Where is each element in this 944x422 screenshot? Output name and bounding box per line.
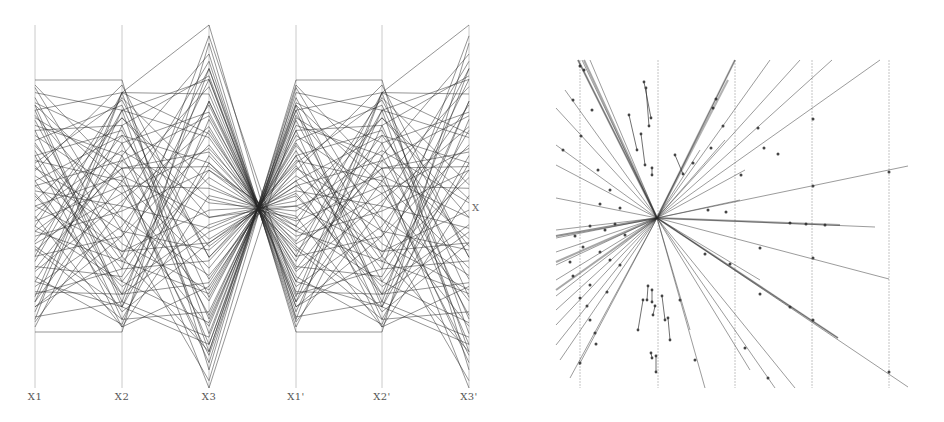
ray-marker bbox=[595, 343, 598, 346]
segment-endpoint bbox=[667, 317, 670, 320]
segment-endpoint bbox=[637, 329, 640, 332]
segment-endpoint bbox=[654, 305, 657, 308]
ray-marker bbox=[812, 118, 815, 121]
ray-line bbox=[657, 218, 795, 388]
ray-marker bbox=[619, 207, 622, 210]
segment-endpoint bbox=[651, 289, 654, 292]
ray-marker bbox=[888, 171, 891, 174]
ray-marker bbox=[604, 229, 607, 232]
segment-endpoint bbox=[628, 114, 631, 117]
segment-endpoint bbox=[645, 87, 648, 90]
ray-marker bbox=[589, 225, 592, 228]
ray-marker bbox=[710, 147, 713, 150]
segment-endpoint bbox=[661, 295, 664, 298]
short-segment bbox=[638, 300, 643, 330]
parallel-coordinates-plot: X1X2X3X1'X2'X3' X bbox=[0, 0, 490, 422]
ray-marker bbox=[759, 247, 762, 250]
ray-line bbox=[556, 218, 657, 345]
ray-line bbox=[657, 218, 775, 388]
ray-marker bbox=[624, 234, 627, 237]
axis-label-5: X2' bbox=[373, 391, 391, 402]
parallel-coordinates-canvas bbox=[0, 0, 490, 422]
side-label-x: X bbox=[472, 202, 479, 213]
segment-endpoint bbox=[664, 319, 667, 322]
ray-line bbox=[657, 218, 889, 279]
short-segment bbox=[662, 296, 665, 320]
ray-marker bbox=[763, 147, 766, 150]
polylines bbox=[35, 25, 469, 388]
ray-line bbox=[657, 60, 800, 218]
ray-marker bbox=[594, 332, 597, 335]
ray-marker bbox=[757, 127, 760, 130]
segment-endpoint bbox=[636, 149, 639, 152]
segment-endpoint bbox=[655, 371, 658, 374]
segment-endpoint bbox=[650, 352, 653, 355]
short-segment bbox=[647, 286, 648, 300]
ray-marker bbox=[597, 169, 600, 172]
segment-endpoint bbox=[651, 301, 654, 304]
ray-marker bbox=[609, 259, 612, 262]
segment-endpoint bbox=[669, 339, 672, 342]
ray-line bbox=[657, 218, 750, 370]
ray-plot bbox=[540, 0, 944, 422]
segment-endpoint bbox=[640, 133, 643, 136]
ray-plot-canvas bbox=[540, 0, 944, 422]
ray-marker bbox=[704, 253, 707, 256]
ray-line bbox=[657, 60, 880, 218]
ray-marker bbox=[582, 246, 585, 249]
ray-line bbox=[556, 165, 657, 218]
ray-marker bbox=[740, 174, 743, 177]
ray-marker bbox=[679, 299, 682, 302]
ray-marker bbox=[707, 209, 710, 212]
axis-label-2: X2 bbox=[115, 391, 129, 402]
ray-line bbox=[657, 60, 832, 218]
ray-marker bbox=[812, 185, 815, 188]
ray-marker bbox=[579, 362, 582, 365]
axis-label-1: X1 bbox=[28, 391, 42, 402]
ray-marker bbox=[619, 264, 622, 267]
axis-label-6: X3' bbox=[460, 391, 478, 402]
ray-bundle bbox=[657, 218, 838, 338]
segment-endpoint bbox=[651, 167, 654, 170]
ray-marker bbox=[562, 149, 565, 152]
ray-marker bbox=[579, 297, 582, 300]
segment-endpoint bbox=[651, 174, 654, 177]
ray-marker bbox=[580, 135, 583, 138]
ray-marker bbox=[692, 162, 695, 165]
axis-label-3: X3 bbox=[202, 391, 216, 402]
ray-bundle bbox=[584, 60, 657, 218]
segment-endpoint bbox=[648, 125, 651, 128]
ray-marker bbox=[589, 319, 592, 322]
segment-endpoint bbox=[682, 173, 685, 176]
short-segment bbox=[641, 134, 645, 165]
ray-marker bbox=[767, 377, 770, 380]
segment-endpoint bbox=[642, 299, 645, 302]
ray-marker bbox=[591, 109, 594, 112]
segment-endpoint bbox=[643, 81, 646, 84]
segment-endpoint bbox=[647, 285, 650, 288]
ray-marker bbox=[599, 203, 602, 206]
ray-marker bbox=[589, 284, 592, 287]
short-segment bbox=[629, 115, 637, 150]
segment-endpoint bbox=[651, 357, 654, 360]
ray-marker bbox=[606, 291, 609, 294]
ray-bundle bbox=[657, 218, 840, 225]
ray-marker bbox=[725, 211, 728, 214]
ray-line bbox=[570, 218, 657, 378]
ray-marker bbox=[599, 251, 602, 254]
ray-line bbox=[556, 218, 657, 310]
record-polyline bbox=[35, 88, 469, 381]
ray-marker bbox=[574, 235, 577, 238]
ray-bundle bbox=[556, 218, 657, 290]
segment-endpoint bbox=[646, 299, 649, 302]
segment-endpoint bbox=[650, 117, 653, 120]
axis-label-4: X1' bbox=[287, 391, 305, 402]
segment-endpoint bbox=[644, 164, 647, 167]
ray-marker bbox=[744, 347, 747, 350]
ray-line bbox=[657, 60, 770, 218]
segment-endpoint bbox=[652, 314, 655, 317]
ray-marker bbox=[812, 257, 815, 260]
ray-marker bbox=[694, 359, 697, 362]
short-segment bbox=[668, 318, 670, 340]
ray-marker bbox=[586, 305, 589, 308]
